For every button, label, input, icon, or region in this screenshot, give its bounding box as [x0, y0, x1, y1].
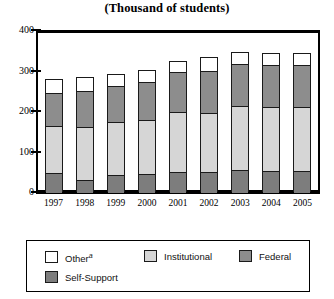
bar-segment-other: [170, 62, 186, 73]
bar-segment-institutional: [263, 108, 279, 172]
bar-segment-federal: [139, 83, 155, 121]
chart-title: (Thousand of students): [0, 1, 334, 16]
bar-segment-self-support: [108, 176, 124, 193]
bar-segment-other: [263, 54, 279, 66]
bar-group[interactable]: [76, 77, 94, 192]
bar-segment-other: [139, 71, 155, 83]
bar-segment-other: [294, 54, 310, 66]
bar-group[interactable]: [169, 61, 187, 192]
bar-segment-self-support: [201, 173, 217, 193]
bar-segment-self-support: [170, 173, 186, 193]
bar-group[interactable]: [107, 74, 125, 192]
bar-group[interactable]: [231, 52, 249, 192]
bar-segment-institutional: [77, 128, 93, 181]
bar-segment-other: [108, 75, 124, 87]
bar-segment-institutional: [108, 123, 124, 176]
bar-segment-institutional: [46, 127, 62, 174]
legend-entry[interactable]: Othera: [45, 250, 93, 264]
bar-segment-federal: [263, 66, 279, 108]
legend-swatch-icon: [45, 271, 58, 283]
bar-segment-institutional: [294, 108, 310, 172]
stacked-bar[interactable]: [200, 57, 218, 192]
bar-segment-self-support: [139, 175, 155, 193]
y-axis-label: 0: [4, 187, 34, 197]
legend-swatch-icon: [45, 251, 58, 263]
bar-segment-institutional: [139, 121, 155, 174]
legend-label: Federal: [259, 251, 291, 262]
bar-segment-other: [46, 80, 62, 94]
bar-segment-federal: [294, 66, 310, 108]
bar-segment-self-support: [263, 172, 279, 193]
bar-group[interactable]: [293, 53, 311, 192]
legend-entry[interactable]: Institutional: [144, 250, 212, 262]
legend-label: Self-Support: [65, 272, 118, 283]
bar-segment-other: [201, 58, 217, 72]
stacked-bar[interactable]: [231, 52, 249, 192]
legend-label: Institutional: [164, 251, 212, 262]
bar-group[interactable]: [138, 70, 156, 192]
bar-segment-federal: [108, 87, 124, 123]
bar-group[interactable]: [262, 53, 280, 192]
stacked-bar[interactable]: [138, 70, 156, 192]
bar-segment-federal: [232, 65, 248, 107]
stacked-bar[interactable]: [107, 74, 125, 192]
bars-container: [38, 30, 318, 192]
chart-figure: (Thousand of students) 0100200300400 199…: [0, 0, 334, 299]
y-axis-label: 300: [4, 66, 34, 76]
bar-segment-institutional: [201, 114, 217, 173]
y-axis-label: 200: [4, 106, 34, 116]
bar-segment-federal: [201, 72, 217, 114]
x-axis-label: 2005: [282, 198, 322, 208]
bar-segment-federal: [77, 92, 93, 128]
stacked-bar[interactable]: [169, 61, 187, 192]
stacked-bar[interactable]: [76, 77, 94, 192]
legend-swatch-icon: [144, 250, 157, 262]
bar-group[interactable]: [200, 57, 218, 192]
bar-segment-institutional: [232, 107, 248, 171]
legend-entry[interactable]: Federal: [239, 250, 291, 262]
bar-segment-other: [77, 78, 93, 92]
stacked-bar[interactable]: [262, 53, 280, 192]
legend-label: Othera: [65, 250, 93, 264]
bar-segment-self-support: [46, 174, 62, 193]
bar-segment-federal: [170, 73, 186, 113]
legend-entry[interactable]: Self-Support: [45, 271, 118, 283]
bar-segment-federal: [46, 94, 62, 127]
bar-group[interactable]: [45, 79, 63, 192]
stacked-bar[interactable]: [45, 79, 63, 192]
y-axis-label: 400: [4, 25, 34, 35]
bar-segment-self-support: [232, 171, 248, 193]
legend-swatch-icon: [239, 250, 252, 262]
chart-legend: OtheraInstitutionalFederalSelf-Support: [26, 240, 310, 292]
stacked-bar[interactable]: [293, 53, 311, 192]
bar-segment-self-support: [77, 181, 93, 193]
bar-segment-self-support: [294, 172, 310, 193]
y-axis-label: 100: [4, 147, 34, 157]
bar-segment-institutional: [170, 113, 186, 173]
bar-segment-other: [232, 53, 248, 65]
